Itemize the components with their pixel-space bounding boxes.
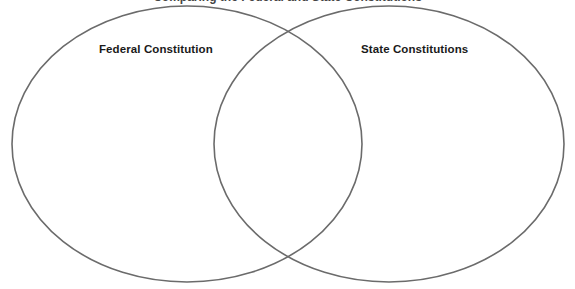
state-constitutions-label: State Constitutions	[361, 43, 468, 55]
venn-circles-svg	[0, 0, 575, 289]
venn-diagram-figure: Comparing the Federal and State Constitu…	[0, 0, 575, 289]
federal-constitution-label: Federal Constitution	[99, 43, 213, 55]
